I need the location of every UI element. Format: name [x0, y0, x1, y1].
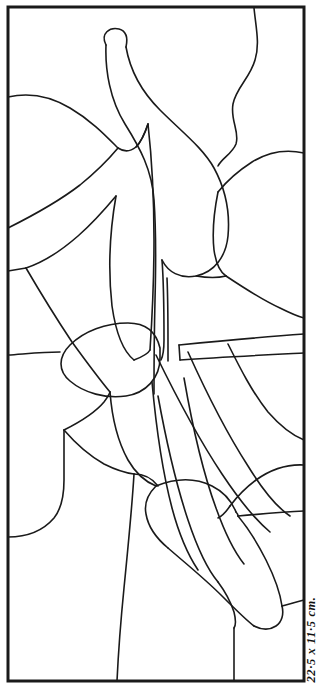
- paper-background: [0, 0, 330, 694]
- dimension-caption-text: 22·5 x 11·5 cm.: [305, 675, 318, 682]
- pattern-page: 22·5 x 11·5 cm.: [0, 0, 330, 694]
- lead-line-band-left-cap: [179, 345, 180, 360]
- stained-glass-drawing: [0, 0, 330, 694]
- dimension-caption: 22·5 x 11·5 cm.: [308, 572, 326, 682]
